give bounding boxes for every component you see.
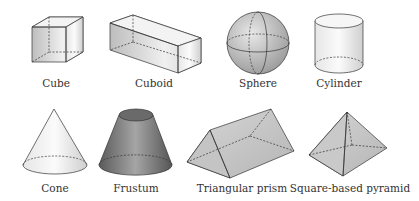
sphere-shape <box>227 12 289 74</box>
frustum-shape <box>99 109 172 175</box>
label-cylinder: Cylinder <box>316 77 361 89</box>
square-based-pyramid-shape <box>309 112 387 176</box>
triangular-prism-shape <box>187 109 294 178</box>
shapes-canvas <box>0 0 419 201</box>
label-frustum: Frustum <box>113 182 158 194</box>
label-square-based-pyramid: Square-based pyramid <box>290 182 410 194</box>
label-cube: Cube <box>42 77 70 89</box>
cube-shape <box>32 17 83 62</box>
label-cuboid: Cuboid <box>135 77 173 89</box>
cuboid-shape <box>110 15 201 73</box>
cylinder-shape <box>315 14 363 73</box>
cone-shape <box>23 109 87 174</box>
label-triangular-prism: Triangular prism <box>197 182 287 194</box>
label-sphere: Sphere <box>239 77 277 89</box>
label-cone: Cone <box>41 182 68 194</box>
